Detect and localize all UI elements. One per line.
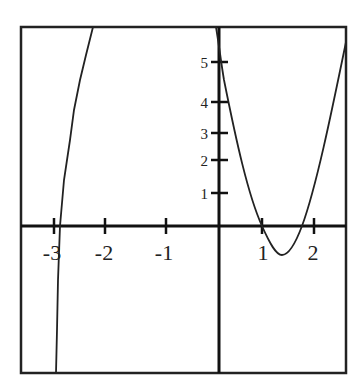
function-plot: -3 -2 -1 1 2 1 2 3 4 5 [0, 0, 363, 389]
y-tick-label: 1 [201, 186, 209, 202]
y-tick-label: 5 [201, 55, 209, 71]
x-tick-label: -2 [95, 240, 113, 265]
plot-frame [21, 27, 346, 373]
x-tick-label: 2 [308, 240, 319, 265]
y-tick-label: 2 [201, 153, 209, 169]
curve-right-branch [216, 27, 346, 255]
y-tick-label: 4 [201, 95, 209, 111]
x-tick-label: 1 [258, 240, 269, 265]
curve-left-branch [56, 27, 93, 373]
y-tick-label: 3 [201, 126, 209, 142]
x-tick-label: -1 [155, 240, 173, 265]
